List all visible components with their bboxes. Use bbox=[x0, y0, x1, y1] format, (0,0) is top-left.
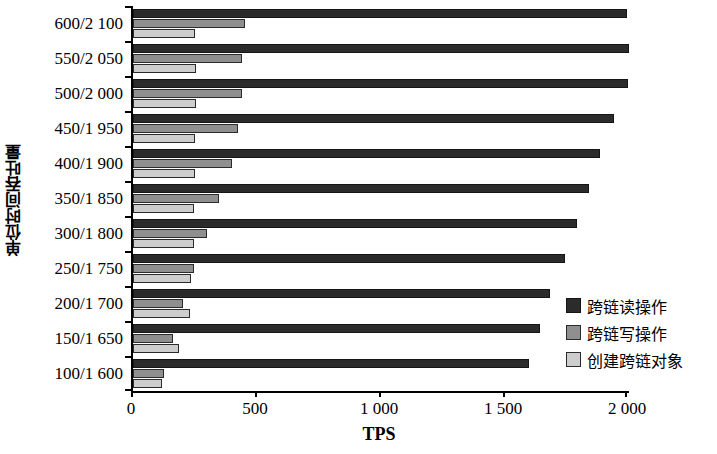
bar-group bbox=[133, 76, 629, 111]
bar-row bbox=[133, 264, 629, 273]
y-axis-tick-label: 600/2 100 bbox=[28, 6, 128, 41]
bar-2 bbox=[133, 64, 196, 73]
y-axis-tick-label: 100/1 600 bbox=[28, 356, 128, 391]
bar-chart: 单位时间吞吐量 600/2 100550/2 050500/2 000450/1… bbox=[0, 0, 717, 454]
bar-2 bbox=[133, 134, 195, 143]
bar-row bbox=[133, 344, 629, 353]
bar-row bbox=[133, 369, 629, 378]
bar-0 bbox=[133, 289, 550, 298]
bar-1 bbox=[133, 299, 183, 308]
bar-0 bbox=[133, 79, 628, 88]
bar-1 bbox=[133, 124, 238, 133]
bar-row bbox=[133, 204, 629, 213]
x-axis-tick-label: 0 bbox=[127, 399, 136, 419]
bar-group bbox=[133, 321, 629, 356]
bar-1 bbox=[133, 369, 164, 378]
x-axis-tick bbox=[131, 391, 133, 397]
bar-2 bbox=[133, 169, 195, 178]
x-axis-tick bbox=[255, 391, 257, 397]
legend-label: 跨链写操作 bbox=[587, 321, 667, 345]
bar-group bbox=[133, 181, 629, 216]
bar-row bbox=[133, 64, 629, 73]
y-axis-tick-label: 300/1 800 bbox=[28, 216, 128, 251]
bar-2 bbox=[133, 29, 195, 38]
bar-row bbox=[133, 379, 629, 388]
bar-row bbox=[133, 134, 629, 143]
bar-0 bbox=[133, 219, 577, 228]
bar-row bbox=[133, 359, 629, 368]
bar-group bbox=[133, 356, 629, 391]
bar-1 bbox=[133, 334, 173, 343]
bar-2 bbox=[133, 99, 196, 108]
bar-0 bbox=[133, 44, 629, 53]
x-axis-tick bbox=[379, 391, 381, 397]
x-axis-tick-labels: 05001 0001 5002 000 bbox=[0, 399, 717, 421]
bar-0 bbox=[133, 9, 627, 18]
x-axis-tick-label: 500 bbox=[242, 399, 268, 419]
x-axis-title: TPS bbox=[131, 424, 627, 445]
bar-row bbox=[133, 149, 629, 158]
bar-0 bbox=[133, 149, 600, 158]
bar-groups bbox=[133, 6, 629, 391]
x-axis-tick bbox=[503, 391, 505, 397]
bar-row bbox=[133, 54, 629, 63]
bar-1 bbox=[133, 54, 242, 63]
bar-group bbox=[133, 216, 629, 251]
bar-0 bbox=[133, 114, 614, 123]
legend-label: 创建跨链对象 bbox=[587, 348, 683, 372]
bar-row bbox=[133, 229, 629, 238]
legend-item: 跨链写操作 bbox=[566, 319, 716, 346]
bar-row bbox=[133, 194, 629, 203]
bar-row bbox=[133, 289, 629, 298]
y-axis-tick-label: 450/1 950 bbox=[28, 111, 128, 146]
bar-row bbox=[133, 9, 629, 18]
bar-row bbox=[133, 184, 629, 193]
legend-swatch-icon bbox=[566, 298, 581, 313]
bar-1 bbox=[133, 264, 194, 273]
bar-group bbox=[133, 251, 629, 286]
bar-row bbox=[133, 334, 629, 343]
y-axis-tick-label: 350/1 850 bbox=[28, 181, 128, 216]
legend-swatch-icon bbox=[566, 352, 581, 367]
y-axis-tick-label: 200/1 700 bbox=[28, 286, 128, 321]
y-axis-tick-label: 150/1 650 bbox=[28, 321, 128, 356]
plot-area bbox=[131, 6, 629, 393]
bar-1 bbox=[133, 229, 207, 238]
bar-group bbox=[133, 6, 629, 41]
y-axis-tick-labels: 600/2 100550/2 050500/2 000450/1 950400/… bbox=[28, 6, 128, 391]
bar-row bbox=[133, 239, 629, 248]
bar-2 bbox=[133, 204, 194, 213]
bar-row bbox=[133, 169, 629, 178]
bar-row bbox=[133, 309, 629, 318]
x-axis-tick-label: 1 500 bbox=[484, 399, 522, 419]
bar-row bbox=[133, 89, 629, 98]
bar-group bbox=[133, 146, 629, 181]
y-axis-tick-label: 550/2 050 bbox=[28, 41, 128, 76]
bar-row bbox=[133, 159, 629, 168]
legend-label: 跨链读操作 bbox=[587, 294, 667, 318]
bar-row bbox=[133, 299, 629, 308]
y-axis-title-text: 单位时间吞吐量 bbox=[7, 144, 23, 256]
y-axis-tick-label: 400/1 900 bbox=[28, 146, 128, 181]
y-axis-tick-label: 500/2 000 bbox=[28, 76, 128, 111]
bar-1 bbox=[133, 194, 219, 203]
bar-2 bbox=[133, 344, 179, 353]
bar-group bbox=[133, 41, 629, 76]
bar-row bbox=[133, 254, 629, 263]
bar-row bbox=[133, 44, 629, 53]
bar-2 bbox=[133, 274, 191, 283]
x-axis-tick bbox=[625, 391, 627, 397]
x-axis-tick-label: 2 000 bbox=[608, 399, 646, 419]
bar-row bbox=[133, 324, 629, 333]
bar-0 bbox=[133, 254, 565, 263]
y-axis-title: 单位时间吞吐量 bbox=[2, 0, 28, 400]
legend: 跨链读操作跨链写操作创建跨链对象 bbox=[566, 292, 716, 373]
bar-0 bbox=[133, 324, 540, 333]
bar-0 bbox=[133, 184, 589, 193]
bar-2 bbox=[133, 239, 194, 248]
y-axis-tick-label: 250/1 750 bbox=[28, 251, 128, 286]
bar-2 bbox=[133, 379, 162, 388]
bar-row bbox=[133, 124, 629, 133]
legend-swatch-icon bbox=[566, 325, 581, 340]
bar-row bbox=[133, 29, 629, 38]
